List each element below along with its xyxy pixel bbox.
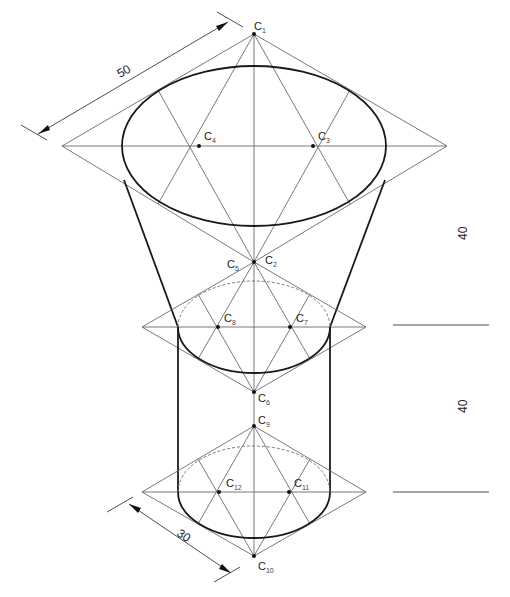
frustum-right-edge (330, 180, 385, 327)
dimension-heights: 40 40 (393, 226, 489, 492)
label-c4: C4 (204, 130, 216, 144)
label-c6: C6 (258, 392, 270, 406)
svg-text:30: 30 (174, 526, 193, 545)
label-c12: C12 (226, 477, 242, 491)
svg-text:40: 40 (456, 226, 470, 240)
label-c11: C11 (294, 477, 309, 491)
frustum-left-edge (124, 180, 178, 327)
label-c1: C1 (254, 20, 266, 34)
label-c7: C7 (296, 312, 308, 326)
label-c8: C8 (224, 312, 236, 326)
label-c3: C3 (318, 130, 330, 144)
label-c5: C5 (227, 258, 239, 272)
label-c9: C9 (258, 414, 270, 428)
svg-text:50: 50 (115, 62, 134, 81)
svg-text:40: 40 (456, 399, 470, 413)
label-c10: C10 (258, 560, 274, 574)
isometric-drawing: C1 C4 C3 C2 C5 C8 C7 C6 C9 C12 C11 C10 5… (0, 0, 510, 597)
dimension-top-diameter: 50 (21, 12, 243, 140)
label-c2: C2 (265, 254, 277, 268)
